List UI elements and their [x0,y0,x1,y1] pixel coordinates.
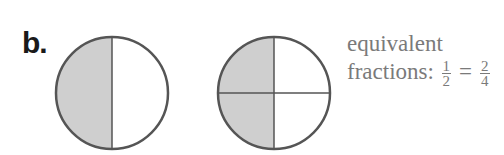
fraction-two-fourths: 2 4 [480,59,490,88]
numerator: 2 [480,59,490,74]
shaded-half [56,37,112,149]
denominator: 2 [442,74,452,88]
caption-prefix: fractions: [347,59,434,84]
fraction-one-half: 1 2 [442,59,452,88]
circle-halves [56,37,168,149]
numerator: 1 [442,59,452,74]
equals-sign: = [459,59,472,84]
caption: equivalent fractions: 1 2 = 2 4 [347,30,492,88]
circle-quarters [218,37,330,149]
caption-line2: fractions: 1 2 = 2 4 [347,58,492,88]
denominator: 4 [480,74,490,88]
caption-line1: equivalent [347,30,492,58]
